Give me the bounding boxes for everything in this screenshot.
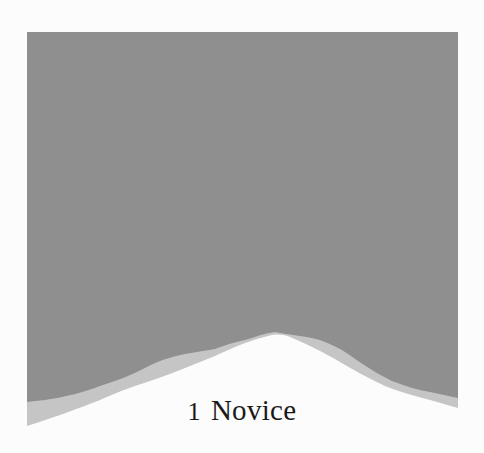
mountain-illustration <box>0 0 484 453</box>
level-name: Novice <box>211 394 297 426</box>
level-number: 1 <box>188 397 201 426</box>
level-title: 1Novice <box>0 393 484 429</box>
sky-region <box>27 32 458 402</box>
